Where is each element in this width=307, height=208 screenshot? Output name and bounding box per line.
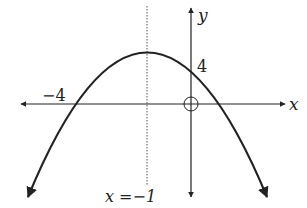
axis-of-symmetry-label: x =−1 <box>105 187 156 206</box>
y-intercept-label: 4 <box>197 57 207 76</box>
x-intercept-label: −4 <box>42 86 66 105</box>
parabola-graph: y x −4 4 x =−1 <box>0 0 307 208</box>
x-axis-label: x <box>289 94 299 114</box>
y-axis-label: y <box>197 5 208 25</box>
